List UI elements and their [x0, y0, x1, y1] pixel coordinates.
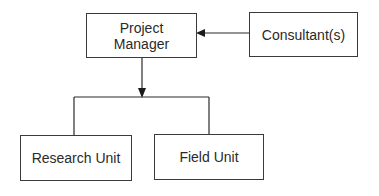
node-consultants: Consultant(s) — [249, 12, 358, 57]
node-label: Consultant(s) — [262, 27, 345, 43]
node-project-manager: Project Manager — [86, 13, 197, 58]
node-label-line2: Manager — [114, 36, 169, 52]
node-research-unit: Research Unit — [20, 135, 132, 181]
node-field-unit: Field Unit — [154, 134, 264, 180]
node-label-line1: Project — [114, 20, 169, 36]
node-label: Research Unit — [32, 150, 121, 166]
node-label: Field Unit — [179, 149, 238, 165]
arrowhead-left-icon — [196, 29, 205, 37]
